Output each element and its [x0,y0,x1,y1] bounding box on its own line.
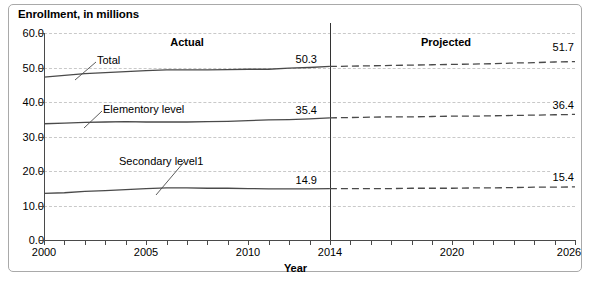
x-axis-line [44,240,575,241]
series-path-total-projected [330,62,575,67]
value-label-total-2026: 51.7 [552,41,575,53]
x-tick-label-2026: 2026 [557,246,581,258]
value-label-secondary-2014: 14.9 [295,174,318,186]
leader-line-total [75,62,96,80]
x-axis-title: Year [0,262,591,274]
x-tick-label-2020: 2020 [440,246,464,258]
series-path-total-actual [44,66,330,77]
series-path-secondary-level1-actual [44,188,330,194]
x-tick-2026 [575,240,576,245]
value-label-total-2014: 50.3 [295,53,318,65]
value-label-elementary-2026: 36.4 [552,99,575,111]
series-path-elementory-level-actual [44,118,330,124]
series-label-secondary: Secondary level1 [119,155,203,167]
x-tick-label-2014: 2014 [318,246,342,258]
actual-label: Actual [170,36,204,48]
value-label-secondary-2026: 15.4 [552,171,575,183]
series-path-secondary-level1-projected [330,187,575,189]
x-tick-label-2000: 2000 [32,246,56,258]
chart-title: Enrollment, in millions [18,8,139,20]
value-label-elementary-2014: 35.4 [295,104,318,116]
x-tick-label-2010: 2010 [236,246,260,258]
projected-label: Projected [421,36,471,48]
chart-figure: Enrollment, in millions 60.0 50.0 40.0 3… [0,0,591,283]
series-label-total: Total [97,54,120,66]
series-label-elementary: Elementory level [103,103,184,115]
leader-line-elementary [84,111,102,128]
series-path-elementory-level-projected [330,114,575,117]
x-tick-label-2005: 2005 [134,246,158,258]
